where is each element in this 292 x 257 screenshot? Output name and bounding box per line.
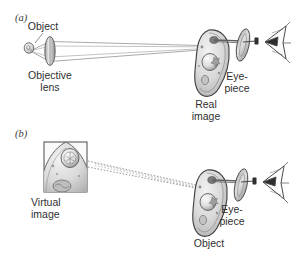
panel-b-eyepiece-lens: [232, 168, 257, 203]
panel-a-eye-icon: [265, 22, 291, 63]
panel-b-eye-icon: [263, 162, 289, 203]
real-image-label-line1: Real: [195, 98, 217, 110]
objective-lens-label-line2: lens: [40, 81, 59, 93]
panel-b: (b) Virtual image: [15, 128, 289, 249]
panel-b-eyepiece-label-line2: piece: [219, 215, 244, 227]
real-image-label-line2: image: [192, 110, 221, 122]
panel-b-object-label: Object: [194, 237, 224, 249]
objective-lens: [45, 37, 55, 66]
panel-a-object-leader: [35, 33, 43, 43]
objective-lens-label-line1: Objective: [28, 69, 72, 81]
panel-a-object-specimen: [24, 43, 34, 53]
virtual-image-frame: [40, 142, 92, 196]
panel-b-eyepiece-label-line1: Eye-: [221, 203, 243, 215]
virtual-image-label-line1: Virtual: [31, 196, 61, 208]
panel-a-eyepiece-label-line1: Eye-: [226, 70, 248, 82]
panel-a-eyepiece-lens: [234, 28, 259, 63]
diagram-canvas: (a) Object Objective lens: [0, 0, 292, 257]
panel-a: (a) Object Objective lens: [15, 12, 291, 122]
panel-a-object-label: Object: [28, 20, 58, 32]
microscope-ray-diagram-figure: (a) Object Objective lens: [0, 0, 292, 257]
panel-b-virtual-rays: [88, 161, 201, 189]
panel-b-label: (b): [15, 128, 28, 140]
panel-a-eyepiece-label-line2: piece: [224, 82, 249, 94]
panel-a-label: (a): [15, 12, 28, 24]
virtual-image-label-line2: image: [31, 208, 60, 220]
